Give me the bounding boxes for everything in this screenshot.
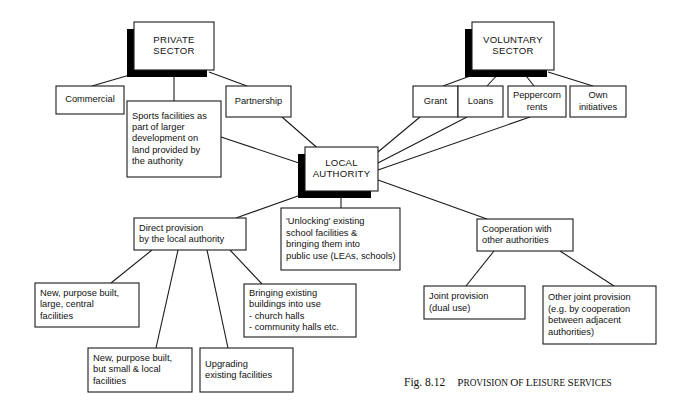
node-label-line: SECTOR: [153, 45, 194, 56]
connector-local_authority-to-peppercorn: [378, 117, 530, 170]
connector-voluntary_sector-to-own_initiatives: [548, 72, 593, 86]
connector-local_authority-to-grant: [378, 117, 420, 152]
node-new-small[interactable]: New, purpose built,but small & localfaci…: [88, 348, 192, 392]
node-label-line: Own: [588, 90, 607, 100]
node-label-line: large, central: [40, 299, 94, 309]
node-label-line: between adjacent: [548, 315, 621, 325]
node-label-line: Loans: [468, 96, 494, 106]
node-label-line: Direct provision: [139, 223, 203, 233]
node-unlocking[interactable]: 'Unlocking' existingschool facilities &b…: [281, 208, 400, 270]
node-label-line: New, purpose built,: [40, 288, 119, 298]
connector-sports_facilities-to-local_authority: [221, 137, 305, 165]
node-label-line: (dual use): [429, 303, 470, 313]
node-private-sector[interactable]: PRIVATESECTOR: [127, 22, 214, 77]
node-label-line: other authorities: [482, 235, 549, 245]
node-commercial[interactable]: Commercial: [56, 86, 124, 114]
node-other-joint[interactable]: Other joint provision(e.g. by cooperatio…: [543, 286, 656, 344]
node-label-line: AUTHORITY: [313, 168, 371, 179]
node-label-line: 'Unlocking' existing: [286, 216, 364, 226]
node-joint-provision[interactable]: Joint provision(dual use): [424, 286, 525, 319]
node-label-line: rents: [527, 102, 548, 112]
connector-direct_provision-to-bringing_buildings: [230, 250, 262, 284]
node-label-line: New, purpose built,: [93, 353, 172, 363]
node-label-line: but small & local: [93, 364, 161, 374]
figure-number: Fig. 8.12: [404, 376, 445, 388]
node-label-line: authorities): [548, 327, 594, 337]
node-direct-provision[interactable]: Direct provisionby the local authority: [134, 218, 246, 250]
node-voluntary-sector[interactable]: VOLUNTARYSECTOR: [465, 22, 554, 77]
node-upgrading[interactable]: Upgradingexisting facilities: [200, 348, 293, 392]
node-label-line: Other joint provision: [548, 292, 631, 302]
node-label-line: Sports facilities as: [132, 111, 207, 121]
node-label-line: LOCAL: [325, 157, 358, 168]
node-label-line: school facilities &: [286, 228, 358, 238]
diagram-canvas: PRIVATESECTORVOLUNTARYSECTORLOCALAUTHORI…: [0, 0, 686, 415]
node-label-line: Commercial: [65, 94, 115, 104]
node-label-line: bringing them into: [286, 239, 360, 249]
node-label-line: the authority: [132, 156, 184, 166]
node-peppercorn[interactable]: Peppercornrents: [508, 86, 566, 117]
node-label-line: public use (LEAs, schools): [286, 251, 396, 261]
node-label-line: Joint provision: [429, 291, 488, 301]
connector-direct_provision-to-new_large: [111, 250, 152, 283]
connector-cooperation-to-other_joint: [560, 251, 614, 286]
node-label-line: Peppercorn: [513, 90, 561, 100]
connector-private_sector-to-partnership: [209, 72, 247, 86]
connector-cooperation-to-joint_provision: [466, 251, 494, 286]
node-cooperation[interactable]: Cooperation withother authorities: [477, 219, 573, 251]
node-label-line: land provided by: [132, 145, 201, 155]
node-label-line: facilities: [40, 311, 73, 321]
node-label-line: VOLUNTARY: [483, 34, 543, 45]
node-label-line: SECTOR: [492, 45, 533, 56]
connector-local_authority-to-loans: [378, 117, 467, 163]
node-label-line: - community halls etc.: [249, 322, 339, 332]
node-label-line: existing facilities: [205, 370, 273, 380]
connector-direct_provision-to-upgrading: [207, 250, 228, 348]
node-label-line: buildings into use: [249, 299, 321, 309]
node-loans[interactable]: Loans: [458, 86, 503, 117]
node-label-line: Bringing existing: [249, 288, 317, 298]
connector-direct_provision-to-new_small: [156, 250, 178, 348]
node-label-line: Partnership: [235, 96, 283, 106]
node-label-line: (e.g. by cooperation: [548, 304, 630, 314]
node-label-line: Grant: [424, 96, 448, 106]
node-label-line: part of larger: [132, 122, 185, 132]
figure-diagram: PRIVATESECTORVOLUNTARYSECTORLOCALAUTHORI…: [0, 0, 686, 415]
node-label-line: Upgrading: [205, 359, 248, 369]
node-local-authority[interactable]: LOCALAUTHORITY: [298, 147, 378, 198]
node-new-large[interactable]: New, purpose built,large, centralfacilit…: [35, 283, 139, 327]
node-label-line: initiatives: [579, 102, 618, 112]
figure-title: PROVISION OF LEISURE SERVICES: [457, 378, 612, 388]
node-label-line: facilities: [93, 376, 126, 386]
node-layer: PRIVATESECTORVOLUNTARYSECTORLOCALAUTHORI…: [35, 22, 656, 392]
node-sports-facilities[interactable]: Sports facilities aspart of largerdevelo…: [127, 101, 221, 177]
figure-caption: Fig. 8.12PROVISION OF LEISURE SERVICES: [404, 372, 612, 390]
node-bringing-buildings[interactable]: Bringing existingbuildings into use- chu…: [244, 284, 356, 337]
node-label-line: by the local authority: [139, 234, 225, 244]
node-label-line: PRIVATE: [153, 34, 194, 45]
node-label-line: Cooperation with: [482, 224, 552, 234]
node-label-line: - church halls: [249, 311, 305, 321]
node-own-initiatives[interactable]: Owninitiatives: [570, 86, 626, 117]
node-label-line: development on: [132, 133, 198, 143]
node-partnership[interactable]: Partnership: [226, 86, 291, 117]
node-grant[interactable]: Grant: [413, 86, 458, 117]
